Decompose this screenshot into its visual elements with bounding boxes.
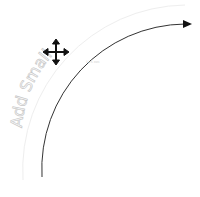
dimension-label: 12.5 mm [86,60,99,64]
curved-arrow-path[interactable] [42,24,185,177]
canvas[interactable]: Add Small [0,0,200,197]
arrowhead-icon [183,20,192,28]
guide-arc [23,5,185,180]
